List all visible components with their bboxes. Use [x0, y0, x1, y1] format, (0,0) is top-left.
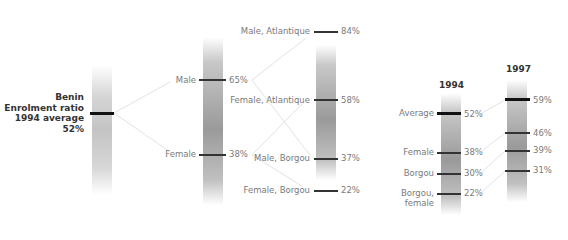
female-value: 38% — [229, 149, 248, 159]
root-title-line2: Enrolment ratio — [4, 103, 84, 114]
female-borgou-marker — [314, 190, 338, 192]
borgou-female-label-line2: female — [401, 198, 434, 208]
male-atlantique-label: Male, Atlantique — [241, 26, 310, 36]
borgou-1997-marker — [505, 150, 530, 152]
female-borgou-label: Female, Borgou — [244, 185, 311, 195]
female-1994-value: 38% — [464, 147, 483, 157]
root-title: Benin Enrolment ratio 1994 average 52% — [4, 92, 84, 134]
borgou-female-1997-value: 31% — [533, 165, 552, 175]
borgou-female-label-line1: Borgou, — [401, 188, 434, 198]
root-title-line4: 52% — [4, 124, 84, 135]
borgou-1994-value: 30% — [464, 168, 483, 178]
male-borgou-marker — [314, 158, 338, 160]
male-marker — [199, 79, 226, 81]
female-marker — [199, 154, 226, 156]
avg-1997-value: 59% — [533, 95, 552, 105]
female-1994-marker — [437, 152, 461, 154]
borgou-female-1994-label: Borgou, female — [401, 188, 434, 208]
root-title-line1: Benin — [4, 92, 84, 103]
region-bar — [316, 45, 336, 180]
borgou-1994-label: Borgou — [404, 168, 434, 178]
male-atlantique-value: 84% — [341, 26, 360, 36]
gender-bar — [203, 37, 223, 205]
avg-1997-marker — [505, 98, 530, 101]
female-atlantique-value: 58% — [341, 95, 360, 105]
male-borgou-label: Male, Borgou — [254, 153, 310, 163]
avg-label: Average — [399, 108, 434, 118]
male-label: Male — [176, 75, 196, 85]
root-title-line3: 1994 average — [4, 113, 84, 124]
borgou-1997-value: 39% — [533, 145, 552, 155]
borgou-1994-marker — [437, 173, 461, 175]
avg-1994-value: 52% — [464, 109, 483, 119]
female-label: Female — [165, 149, 196, 159]
year-1994-title: 1994 — [439, 80, 464, 90]
year-1997-title: 1997 — [506, 64, 531, 74]
female-1997-marker — [505, 132, 530, 134]
avg-1994-marker — [437, 112, 461, 115]
male-value: 65% — [229, 75, 248, 85]
female-atlantique-marker — [314, 99, 338, 101]
borgou-female-1994-value: 22% — [464, 188, 483, 198]
female-1994-label: Female — [403, 147, 434, 157]
male-borgou-value: 37% — [341, 153, 360, 163]
borgou-female-1994-marker — [437, 193, 461, 195]
female-1997-value: 46% — [533, 128, 552, 138]
root-average-marker — [90, 112, 114, 115]
borgou-female-1997-marker — [505, 170, 530, 172]
female-atlantique-label: Female, Atlantique — [230, 95, 310, 105]
male-atlantique-marker — [314, 31, 338, 33]
female-borgou-value: 22% — [341, 185, 360, 195]
root-bar — [92, 65, 112, 195]
